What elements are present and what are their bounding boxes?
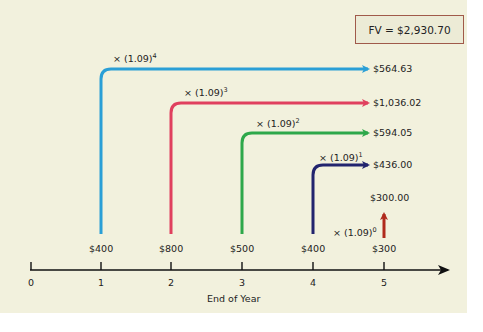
cash-flow-year5: $300 <box>372 244 396 254</box>
cash-flow-year2: $800 <box>159 244 183 254</box>
axis-title: End of Year <box>207 294 260 304</box>
compound-path-year3 <box>242 133 368 234</box>
future-value-total: FV = $2,930.70 <box>368 24 450 36</box>
tick-label-5: 5 <box>381 278 387 288</box>
multiplier-year5: × (1.09)0 <box>333 227 377 238</box>
future-value-year2: $1,036.02 <box>373 98 421 108</box>
future-value-year4: $436.00 <box>373 160 412 170</box>
tick-label-2: 2 <box>168 278 174 288</box>
future-value-year1: $564.63 <box>373 64 412 74</box>
cash-flow-year1: $400 <box>89 244 113 254</box>
tick-label-0: 0 <box>28 278 34 288</box>
tick-label-1: 1 <box>98 278 104 288</box>
tick-label-4: 4 <box>310 278 316 288</box>
multiplier-year4: × (1.09)1 <box>319 152 363 163</box>
multiplier-year2: × (1.09)3 <box>184 87 228 98</box>
multiplier-year1: × (1.09)4 <box>113 53 157 64</box>
cash-flow-year4: $400 <box>301 244 325 254</box>
cash-flow-year3: $500 <box>230 244 254 254</box>
axis-ticks <box>31 262 384 270</box>
compound-path-year4 <box>313 165 368 234</box>
tick-label-3: 3 <box>239 278 245 288</box>
future-value-year5: $300.00 <box>370 193 409 203</box>
future-value-year3: $594.05 <box>373 128 412 138</box>
multiplier-year3: × (1.09)2 <box>256 118 300 129</box>
future-value-box: FV = $2,930.70 <box>355 15 464 44</box>
